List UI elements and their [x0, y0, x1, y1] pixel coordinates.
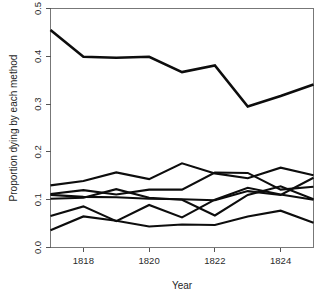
y-axis-title: Proportion dying by each method	[8, 55, 19, 202]
series-line-method-1	[51, 30, 314, 106]
series-line-method-7	[51, 211, 314, 231]
y-tick-label: 0.2	[32, 145, 43, 158]
x-axis-title: Year	[172, 280, 193, 291]
x-tick-label: 1820	[139, 255, 160, 266]
y-tick-label: 0.4	[32, 50, 43, 63]
x-tick-label: 1818	[73, 255, 94, 266]
series-lines	[51, 30, 314, 230]
y-tick-label: 0.0	[32, 241, 43, 254]
line-chart: 0.00.10.20.30.40.5 1818182018221824 Year…	[0, 0, 325, 303]
y-tick-label: 0.3	[32, 97, 43, 110]
series-line-method-6	[51, 188, 314, 221]
series-line-method-2	[51, 163, 314, 185]
x-tick-label: 1824	[270, 255, 291, 266]
series-line-method-3	[51, 172, 314, 194]
x-axis-ticks: 1818182018221824	[73, 248, 291, 266]
chart-figure: 0.00.10.20.30.40.5 1818182018221824 Year…	[0, 0, 325, 303]
y-axis-ticks: 0.00.10.20.30.40.5	[32, 2, 51, 254]
y-tick-label: 0.5	[32, 2, 43, 15]
y-tick-label: 0.1	[32, 193, 43, 206]
x-tick-label: 1822	[204, 255, 225, 266]
